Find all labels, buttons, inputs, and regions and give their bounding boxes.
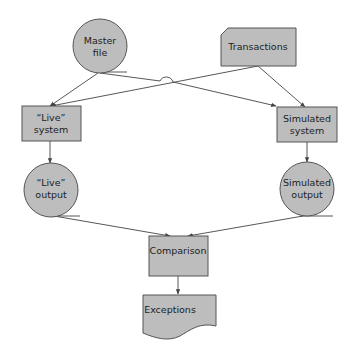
node-comparison[interactable]: Comparison (149, 236, 208, 276)
edge-transactions-to-live-system (51, 66, 258, 106)
node-label-line2: file (93, 47, 108, 58)
edge-transactions-to-simulated-system (258, 66, 305, 107)
node-label-line1: “Live” (37, 112, 66, 123)
node-label-line1: Master (84, 35, 117, 46)
document-shape (143, 295, 216, 339)
node-label-line1: Simulated (283, 113, 331, 124)
node-label-line2: system (290, 125, 324, 136)
node-live-system[interactable]: “Live” system (22, 106, 81, 141)
edge-simulated-output-to-comparison (188, 216, 303, 236)
node-master-file[interactable]: Master file (73, 19, 127, 73)
node-simulated-system[interactable]: Simulated system (277, 107, 337, 142)
edge-master-to-live-system (50, 73, 98, 106)
node-label-line1: Simulated (283, 177, 331, 188)
node-label-line1: Comparison (150, 245, 207, 256)
node-transactions[interactable]: Transactions (221, 28, 296, 66)
node-label-line2: system (34, 124, 68, 135)
node-simulated-output[interactable]: Simulated output (280, 162, 334, 216)
node-label-line1: “Live” (37, 177, 66, 188)
edge-live-output-to-comparison (54, 216, 170, 236)
node-exceptions[interactable]: Exceptions (143, 295, 216, 339)
disk-shape (73, 19, 127, 73)
process-box-shape (149, 236, 208, 276)
node-label-line1: Transactions (227, 41, 287, 52)
parallel-simulation-flowchart: Master file Transactions “Live” system S… (0, 0, 354, 356)
node-label-line2: output (291, 189, 323, 200)
node-label-line1: Exceptions (144, 304, 196, 315)
node-live-output[interactable]: “Live” output (24, 163, 78, 217)
edge-master-to-simulated-system (100, 73, 276, 106)
node-label-line2: output (35, 189, 67, 200)
